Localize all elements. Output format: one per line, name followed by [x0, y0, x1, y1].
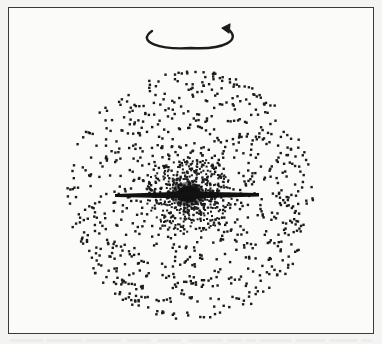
galactic-disk — [115, 192, 259, 199]
rotation-arrow-icon — [147, 24, 233, 48]
galaxy-figure — [0, 0, 382, 344]
